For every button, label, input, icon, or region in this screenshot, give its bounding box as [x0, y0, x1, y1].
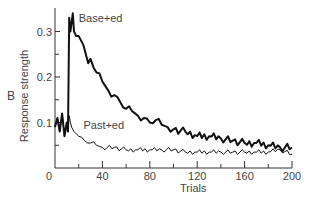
x-tick-label: 200 — [283, 170, 301, 182]
x-tick-label: 120 — [188, 170, 206, 182]
y-ticks: 0.10.20.3 — [37, 26, 60, 146]
x-tick-label: 160 — [235, 170, 253, 182]
x-ticks: 4080120160200 — [79, 161, 301, 182]
series-labels: Base+edPast+ed — [79, 12, 124, 131]
axes — [55, 8, 292, 168]
y-tick-label: 0.2 — [37, 71, 52, 83]
x-axis-label: Trials — [180, 182, 207, 194]
series-label: Base+ed — [79, 12, 123, 24]
panel-label: B — [7, 89, 15, 103]
x-tick-label: 80 — [144, 170, 156, 182]
y-tick-label: 0.3 — [37, 26, 52, 38]
series-label: Past+ed — [83, 119, 124, 131]
series-lines — [55, 13, 292, 154]
x-tick-label: 40 — [96, 170, 108, 182]
y-axis-label: Response strength — [18, 50, 30, 142]
y-tick-label: 0.1 — [37, 117, 52, 129]
response-strength-chart: 4080120160200 0.10.20.3 Base+edPast+ed 0… — [0, 0, 312, 199]
origin-label: 0 — [46, 170, 52, 182]
